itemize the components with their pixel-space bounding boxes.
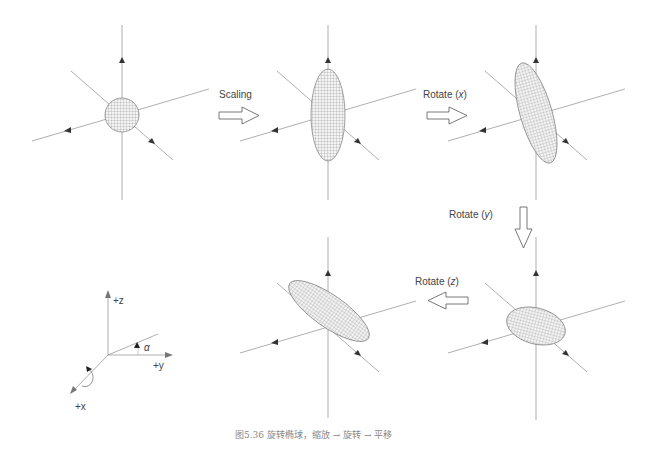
- z-axis-label: +z: [113, 295, 124, 306]
- transition-rotate-x: Rotate (x): [423, 89, 467, 124]
- figure-canvas: Scaling Rotate (x) Rotate (y): [0, 0, 657, 449]
- y-arrow-icon: [165, 352, 173, 358]
- y-axis-label: +y: [153, 360, 164, 371]
- z-axis-arrow-icon: [325, 57, 331, 63]
- axes-legend: +z +y α +x: [70, 290, 173, 412]
- down-arrow-icon: [515, 207, 532, 248]
- scaling-label: Scaling: [219, 89, 252, 100]
- ellipsoid-mesh: [502, 301, 569, 351]
- ellipsoid-mesh: [281, 270, 378, 351]
- y-axis-arrow-icon: [481, 339, 488, 345]
- angle-arrow-icon: [134, 342, 140, 348]
- stage-rotated-x: [448, 25, 625, 200]
- rotate-z-label: Rotate (z): [415, 276, 459, 287]
- figure-caption: 图5.36 旋转椭球，缩放 → 旋转 → 平移: [235, 429, 392, 440]
- right-arrow-icon: [219, 107, 259, 124]
- z-axis-arrow-icon: [119, 57, 125, 63]
- z-axis-arrow-icon: [325, 270, 331, 276]
- x-axis-label: +x: [75, 401, 86, 412]
- transition-rotate-y: Rotate (y): [449, 207, 532, 248]
- y-axis-arrow-icon: [479, 127, 486, 133]
- transition-rotate-z: Rotate (z): [415, 276, 468, 309]
- stage-rotated-y: [448, 237, 625, 420]
- left-arrow-icon: [428, 292, 468, 309]
- y-axis-arrow-icon: [271, 127, 278, 133]
- ellipsoid-mesh: [506, 59, 565, 168]
- transition-scaling: Scaling: [219, 89, 259, 124]
- stage-scaled: [240, 25, 416, 200]
- y-axis-arrow-icon: [64, 127, 71, 133]
- z-axis-arrow-icon: [533, 270, 539, 276]
- y-axis-arrow-icon: [271, 339, 278, 345]
- stage-sphere: [32, 25, 209, 200]
- rotate-x-label: Rotate (x): [423, 89, 467, 100]
- ellipsoid-mesh: [311, 69, 345, 161]
- z-arrow-icon: [105, 290, 111, 298]
- angle-label: α: [144, 342, 150, 353]
- z-axis-arrow-icon: [533, 57, 539, 63]
- right-arrow-icon: [427, 107, 467, 124]
- rotate-y-label: Rotate (y): [449, 209, 493, 220]
- stage-rotated-z: [240, 237, 416, 418]
- x-arrow-icon: [70, 386, 77, 394]
- sphere-mesh: [105, 98, 139, 132]
